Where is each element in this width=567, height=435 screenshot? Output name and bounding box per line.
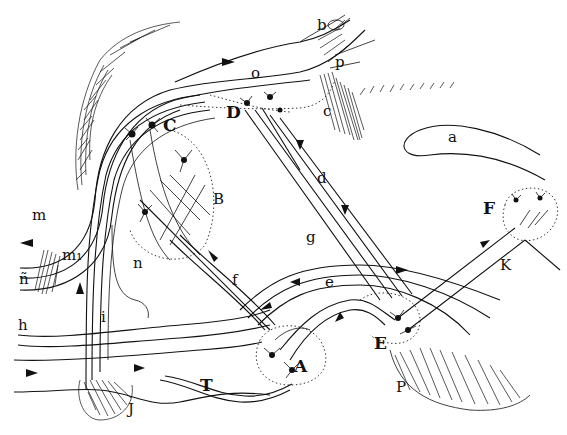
label-a: a <box>448 130 457 145</box>
label-e-upper: E <box>374 335 387 352</box>
label-m: m <box>32 208 46 223</box>
arrow-icon <box>134 364 145 372</box>
label-f: f <box>232 273 238 288</box>
region-a-outline <box>404 125 545 180</box>
label-f-upper: F <box>483 200 495 217</box>
label-k: K <box>500 258 511 273</box>
region-f-cells <box>503 188 558 241</box>
arrow-icon <box>208 250 218 262</box>
diagram-canvas: C D B b o p c a d F K g e f A E P T J h … <box>0 0 567 435</box>
region-b-dotted <box>130 130 214 259</box>
upper-ribbon <box>175 15 375 109</box>
tract-d <box>245 108 412 300</box>
region-d-cells <box>210 92 290 113</box>
label-n: n <box>133 256 143 271</box>
circuit-drawing <box>0 0 567 435</box>
label-c-upper: C <box>163 117 177 134</box>
tract-g-e <box>240 265 500 360</box>
arrow-icon <box>26 369 38 377</box>
arrow-icon <box>480 240 490 248</box>
arrow-icon <box>76 282 84 294</box>
arrow-icon <box>290 278 300 286</box>
label-b: b <box>317 18 327 33</box>
hatch-n-tilde <box>35 250 60 294</box>
label-h: h <box>18 318 28 333</box>
label-g: g <box>306 230 316 245</box>
hatch-c <box>320 72 454 140</box>
arrow-icon <box>260 302 272 310</box>
hatched-mass-top-left <box>76 22 180 190</box>
arrows <box>20 58 490 377</box>
label-a-upper: A <box>294 358 307 375</box>
arrow-icon <box>396 266 408 274</box>
label-p-upper: P <box>396 380 406 395</box>
label-m1: m₁ <box>62 248 82 263</box>
region-a-cells <box>256 326 326 385</box>
label-c: c <box>323 104 331 119</box>
label-n-tilde: ñ <box>19 272 29 287</box>
tract-f <box>140 200 275 330</box>
tract-k <box>398 228 560 330</box>
label-t: T <box>200 377 213 394</box>
label-e: e <box>325 275 334 290</box>
label-p: p <box>335 55 345 70</box>
arrow-icon <box>335 312 344 322</box>
curved-fiber-bundle <box>20 30 365 390</box>
region-e-cells <box>360 293 420 343</box>
label-d-upper: D <box>226 104 241 121</box>
arrow-icon <box>20 239 33 247</box>
label-o: o <box>251 66 260 81</box>
label-j: J <box>128 402 134 417</box>
label-d: d <box>317 171 327 186</box>
hatched-mass-p <box>390 348 530 410</box>
label-b-upper: B <box>213 192 224 207</box>
hatched-blob-j <box>79 380 133 420</box>
label-i: i <box>101 310 106 325</box>
